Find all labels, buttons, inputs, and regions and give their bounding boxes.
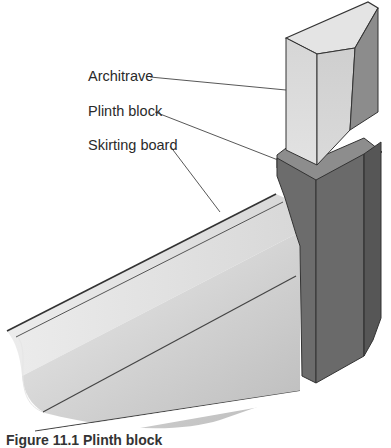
label-architrave: Architrave — [88, 68, 153, 84]
label-plinth-block: Plinth block — [88, 103, 162, 119]
leader-architrave — [150, 77, 286, 90]
figure-caption: Figure 11.1 Plinth block — [6, 432, 162, 448]
skirting-board-shape — [7, 194, 300, 442]
label-skirting-board: Skirting board — [88, 137, 177, 153]
leader-skirting-board — [170, 146, 220, 212]
